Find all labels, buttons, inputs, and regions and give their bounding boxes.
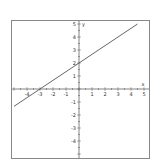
- x-tick-label: 5: [142, 91, 145, 97]
- y-tick-label: 4: [73, 34, 76, 40]
- y-tick-label: -1: [71, 99, 76, 105]
- x-tick-label: -3: [38, 91, 43, 97]
- x-tick-label: 2: [103, 91, 106, 97]
- line-chart: -4-3-2-11234554321-1-2-3-4yx: [0, 0, 157, 166]
- y-tick-label: 3: [73, 47, 76, 53]
- x-tick-label: -1: [64, 91, 69, 97]
- y-tick-label: -2: [71, 112, 76, 118]
- x-tick-label: -2: [51, 91, 56, 97]
- x-axis-label: x: [142, 81, 145, 87]
- y-tick-label: 5: [73, 21, 76, 27]
- plot-frame: [12, 21, 150, 159]
- x-tick-label: 3: [116, 91, 119, 97]
- y-tick-label: -4: [71, 138, 76, 144]
- y-tick-label: 1: [73, 73, 76, 79]
- x-tick-label: 4: [129, 91, 132, 97]
- y-tick-label: -3: [71, 125, 76, 131]
- x-tick-label: 1: [90, 91, 93, 97]
- y-axis-label: y: [82, 21, 85, 28]
